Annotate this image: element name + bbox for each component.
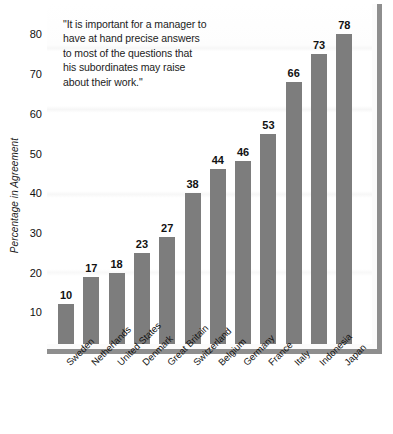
x-axis-category-labels: SwedenNetherlandsUnited StatesDenmarkGre… (0, 0, 393, 434)
bar-chart: 1020304050607080 "It is important for a … (0, 0, 393, 434)
x-tick-label: Italy (292, 348, 312, 368)
